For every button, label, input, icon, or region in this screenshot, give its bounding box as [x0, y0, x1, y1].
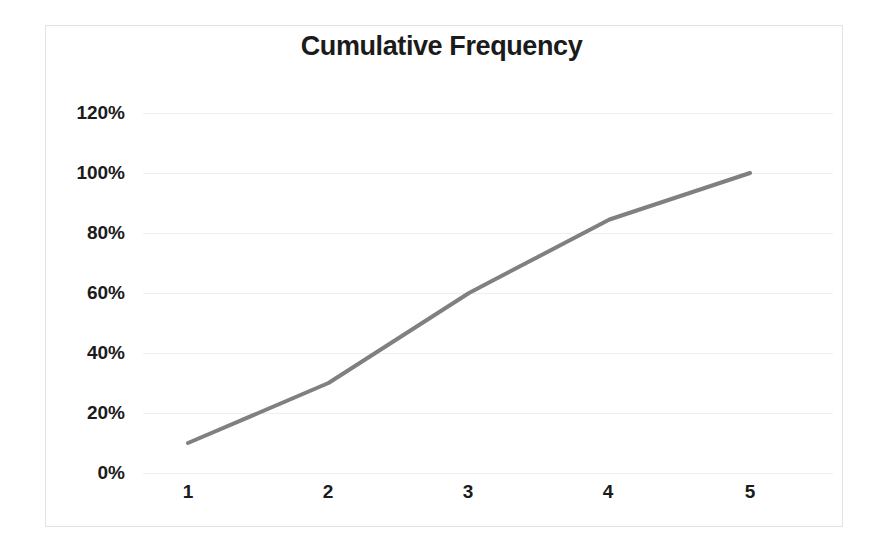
chart-title: Cumulative Frequency [0, 31, 883, 62]
chart-plot-frame [45, 25, 843, 527]
cumulative-frequency-chart: Cumulative Frequency 120% 100% 80% 60% 4… [0, 0, 883, 554]
